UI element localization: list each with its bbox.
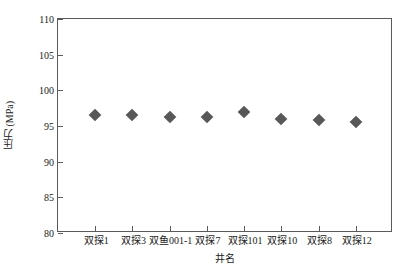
y-axis-tick: 100 <box>58 90 63 91</box>
y-axis-tick: 90 <box>58 162 63 163</box>
y-axis-tick-label: 90 <box>44 156 54 169</box>
x-axis-tick-label: 双探101 <box>228 234 263 248</box>
x-axis-tick-label: 双探3 <box>121 234 146 248</box>
data-point-marker <box>89 108 102 121</box>
x-axis-tick: 双探101 <box>244 226 245 231</box>
x-axis-title: 井名 <box>57 252 392 266</box>
x-axis-tick: 双探3 <box>132 226 133 231</box>
data-point-marker <box>163 111 176 124</box>
y-axis-tick: 105 <box>58 55 63 56</box>
data-point-marker <box>349 115 362 128</box>
y-axis-tick-label: 80 <box>44 227 54 240</box>
data-point-marker <box>312 113 325 126</box>
x-axis-tick-label: 双探10 <box>267 234 297 248</box>
y-axis-title: 压力 (MPa) <box>2 18 16 232</box>
y-axis-tick-label: 100 <box>39 84 54 97</box>
y-axis-title-wrapper: 压力 (MPa) <box>0 18 18 232</box>
x-axis-tick: 双探8 <box>319 226 320 231</box>
x-axis-tick: 双探7 <box>207 226 208 231</box>
x-axis-tick-label: 双鱼001-1 <box>149 234 192 248</box>
y-axis-tick: 110 <box>58 19 63 20</box>
y-axis-tick-label: 105 <box>39 49 54 62</box>
x-axis-tick: 双探1 <box>95 226 96 231</box>
y-axis-tick: 85 <box>58 197 63 198</box>
y-axis-tick-label: 85 <box>44 191 54 204</box>
y-axis-tick: 80 <box>58 233 63 234</box>
x-axis-tick-label: 双探1 <box>84 234 109 248</box>
x-axis-tick-label: 双探7 <box>195 234 220 248</box>
y-axis-tick-label: 110 <box>39 13 54 26</box>
data-point-marker <box>238 105 251 118</box>
y-axis-tick: 95 <box>58 126 63 127</box>
x-axis-tick-label: 双探12 <box>342 234 372 248</box>
x-axis-tick-label: 双探8 <box>307 234 332 248</box>
data-point-marker <box>201 111 214 124</box>
plot-area: 80859095100105110 双探1双探3双鱼001-1双探7双探101双… <box>57 18 392 232</box>
x-axis-tick: 双探12 <box>356 226 357 231</box>
x-axis-tick: 双鱼001-1 <box>170 226 171 231</box>
data-point-marker <box>275 112 288 125</box>
x-axis-tick: 双探10 <box>281 226 282 231</box>
chart-figure: 压力 (MPa) 80859095100105110 双探1双探3双鱼001-1… <box>0 0 418 280</box>
data-point-marker <box>126 108 139 121</box>
y-axis-tick-label: 95 <box>44 120 54 133</box>
